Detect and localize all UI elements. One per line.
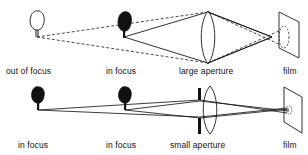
small-lens-icon <box>203 86 217 134</box>
film-plane-top-icon <box>208 12 299 63</box>
label-large-aperture: large aperture <box>179 66 233 76</box>
aperture-diagram <box>0 0 308 155</box>
bottom-row <box>32 86 302 134</box>
label-film-top: film <box>283 66 297 76</box>
in-focus-rays <box>124 12 272 63</box>
film-plane-bottom-icon <box>284 87 302 133</box>
in-focus-tree-icon <box>118 12 131 38</box>
out-of-focus-tree-icon <box>30 11 44 37</box>
top-row <box>30 11 299 64</box>
label-small-aperture: small aperture <box>170 140 225 150</box>
large-lens-icon <box>201 11 215 64</box>
label-out-of-focus: out of focus <box>6 66 51 76</box>
label-in-focus-bottom-2: in focus <box>106 140 136 150</box>
label-film-bottom: film <box>283 140 297 150</box>
in-focus-tree-2-icon <box>119 87 132 110</box>
label-in-focus-bottom-1: in focus <box>18 140 48 150</box>
label-in-focus-top: in focus <box>106 66 136 76</box>
small-aperture-rays <box>38 100 289 118</box>
in-focus-tree-1-icon <box>32 87 45 110</box>
out-of-focus-rays <box>37 12 281 63</box>
aperture-stop-icon <box>198 88 201 134</box>
